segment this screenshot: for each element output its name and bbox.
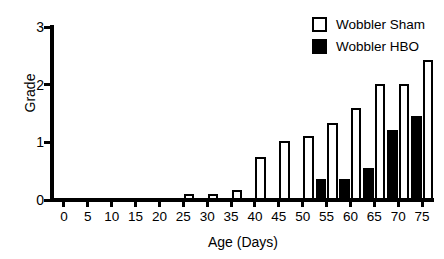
x-axis-tick [158, 202, 161, 207]
bar [387, 130, 398, 200]
x-axis-tick [134, 202, 137, 207]
legend-label: Wobbler HBO [336, 39, 419, 54]
x-axis-tick [230, 202, 233, 207]
x-axis-tick-label: 65 [361, 209, 387, 225]
x-axis-tick-label: 45 [266, 209, 292, 225]
y-axis-tick [44, 141, 51, 144]
bar [255, 157, 266, 200]
x-axis-tick-label: 15 [123, 209, 149, 225]
x-axis-tick [349, 202, 352, 207]
x-axis-tick [86, 202, 89, 207]
filled-square-swatch-icon [312, 39, 327, 54]
legend-item-wobbler-hbo: Wobbler HBO [312, 36, 444, 56]
y-axis-tick [44, 26, 51, 29]
x-axis-tick [182, 202, 185, 207]
x-axis-line [50, 198, 434, 202]
bar [316, 179, 327, 200]
bar-chart: 0123 Grade 05101520253035404550556065707… [0, 0, 444, 259]
x-axis-tick-label: 30 [194, 209, 220, 225]
x-axis-tick-label: 75 [409, 209, 435, 225]
x-axis-tick [206, 202, 209, 207]
x-axis-tick [325, 202, 328, 207]
x-axis-tick [110, 202, 113, 207]
x-axis-tick-label: 5 [75, 209, 101, 225]
x-axis-tick [397, 202, 400, 207]
x-axis-tick-label: 60 [337, 209, 363, 225]
x-axis-tick-label: 10 [99, 209, 125, 225]
x-axis-tick-label: 55 [314, 209, 340, 225]
x-axis-tick [421, 202, 424, 207]
bar [411, 116, 422, 200]
bar [303, 136, 314, 200]
bar [351, 108, 362, 200]
x-axis-tick [253, 202, 256, 207]
y-axis-tick-label: 0 [30, 193, 44, 207]
x-axis-tick-label: 40 [242, 209, 268, 225]
bar [279, 141, 290, 200]
bar [339, 179, 350, 200]
x-axis-tick [62, 202, 65, 207]
x-axis-tick [277, 202, 280, 207]
y-axis-tick [44, 83, 51, 86]
x-axis-tick-label: 35 [218, 209, 244, 225]
x-axis-tick-label: 0 [51, 209, 77, 225]
chart-legend: Wobbler Sham Wobbler HBO [312, 14, 444, 58]
open-square-swatch-icon [312, 17, 327, 32]
x-axis-tick [373, 202, 376, 207]
x-axis-tick-label: 20 [146, 209, 172, 225]
legend-label: Wobbler Sham [336, 17, 425, 32]
x-axis-title: Age (Days) [52, 234, 434, 250]
y-axis-tick-label: 1 [30, 135, 44, 149]
legend-item-wobbler-sham: Wobbler Sham [312, 14, 444, 34]
bar [363, 168, 374, 200]
bar [327, 123, 338, 200]
x-axis-tick-label: 70 [385, 209, 411, 225]
y-axis-tick-label: 3 [30, 20, 44, 34]
x-axis-tick [301, 202, 304, 207]
bar [375, 84, 386, 200]
x-axis-tick-label: 50 [290, 209, 316, 225]
y-axis-title: Grade [23, 58, 37, 128]
bar [423, 60, 434, 200]
bar [399, 84, 410, 200]
x-axis-tick-label: 25 [170, 209, 196, 225]
